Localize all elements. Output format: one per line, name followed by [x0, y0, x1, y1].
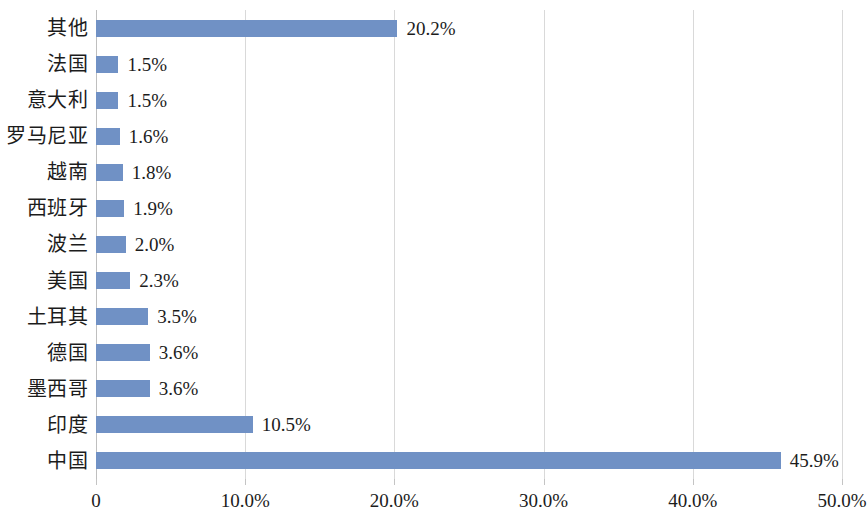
x-tick [245, 479, 246, 485]
x-tick [544, 479, 545, 485]
bar[interactable] [96, 416, 253, 433]
bar-value-label: 10.5% [262, 415, 311, 434]
bar-row[interactable]: 10.5% [96, 407, 842, 443]
bar[interactable] [96, 344, 150, 361]
x-tick-label: 30.0% [519, 491, 568, 510]
category-label: 罗马尼亚 [6, 118, 88, 154]
category-label: 西班牙 [27, 190, 89, 226]
category-label: 中国 [47, 443, 88, 479]
category-label: 墨西哥 [27, 371, 89, 407]
bar-value-label: 3.6% [159, 343, 199, 362]
bar-value-label: 1.6% [129, 127, 169, 146]
bar-value-label: 20.2% [406, 19, 455, 38]
bar-row[interactable]: 2.0% [96, 226, 842, 262]
x-tick-label: 20.0% [370, 491, 419, 510]
bar[interactable] [96, 272, 130, 289]
bar-row[interactable]: 3.6% [96, 335, 842, 371]
bar-row[interactable]: 1.9% [96, 190, 842, 226]
x-axis: 010.0%20.0%30.0%40.0%50.0% [96, 479, 842, 521]
bar-row[interactable]: 1.5% [96, 82, 842, 118]
bar-row[interactable]: 1.5% [96, 46, 842, 82]
bar-chart: 其他法国意大利罗马尼亚越南西班牙波兰美国土耳其德国墨西哥印度中国 20.2%1.… [0, 0, 867, 521]
bar-value-label: 3.5% [157, 307, 197, 326]
gridline-50.0% [842, 10, 843, 479]
bar[interactable] [96, 92, 118, 109]
bar-value-label: 45.9% [790, 451, 839, 470]
bar-value-label: 1.5% [127, 91, 167, 110]
bar[interactable] [96, 380, 150, 397]
x-tick [394, 479, 395, 485]
x-tick-label: 40.0% [668, 491, 717, 510]
bar-rows: 20.2%1.5%1.5%1.6%1.8%1.9%2.0%2.3%3.5%3.6… [96, 10, 842, 479]
x-tick [842, 479, 843, 485]
bar[interactable] [96, 56, 118, 73]
bar-value-label: 1.5% [127, 55, 167, 74]
bar-row[interactable]: 1.8% [96, 154, 842, 190]
bar-row[interactable]: 2.3% [96, 263, 842, 299]
bar[interactable] [96, 128, 120, 145]
category-label: 美国 [47, 263, 88, 299]
category-label: 法国 [47, 46, 88, 82]
bar[interactable] [96, 308, 148, 325]
x-tick-label: 0 [91, 491, 101, 510]
bar[interactable] [96, 452, 781, 469]
bar-row[interactable]: 45.9% [96, 443, 842, 479]
bar-row[interactable]: 1.6% [96, 118, 842, 154]
category-label: 印度 [47, 407, 88, 443]
x-tick [96, 479, 97, 485]
category-label: 意大利 [27, 82, 89, 118]
bar-row[interactable]: 3.6% [96, 371, 842, 407]
x-tick-label: 50.0% [817, 491, 866, 510]
bar[interactable] [96, 20, 397, 37]
category-label: 德国 [47, 335, 88, 371]
bar-value-label: 2.0% [135, 235, 175, 254]
category-label: 土耳其 [27, 299, 89, 335]
bar[interactable] [96, 164, 123, 181]
bar-value-label: 3.6% [159, 379, 199, 398]
bar-row[interactable]: 20.2% [96, 10, 842, 46]
x-tick-label: 10.0% [221, 491, 270, 510]
bar[interactable] [96, 236, 126, 253]
bar-value-label: 1.8% [132, 163, 172, 182]
category-label: 越南 [47, 154, 88, 190]
plot-area: 20.2%1.5%1.5%1.6%1.8%1.9%2.0%2.3%3.5%3.6… [96, 10, 842, 479]
category-axis: 其他法国意大利罗马尼亚越南西班牙波兰美国土耳其德国墨西哥印度中国 [0, 10, 88, 479]
x-tick [693, 479, 694, 485]
bar-value-label: 2.3% [139, 271, 179, 290]
bar-row[interactable]: 3.5% [96, 299, 842, 335]
bar-value-label: 1.9% [133, 199, 173, 218]
category-label: 波兰 [47, 226, 88, 262]
category-label: 其他 [47, 10, 88, 46]
bar[interactable] [96, 200, 124, 217]
